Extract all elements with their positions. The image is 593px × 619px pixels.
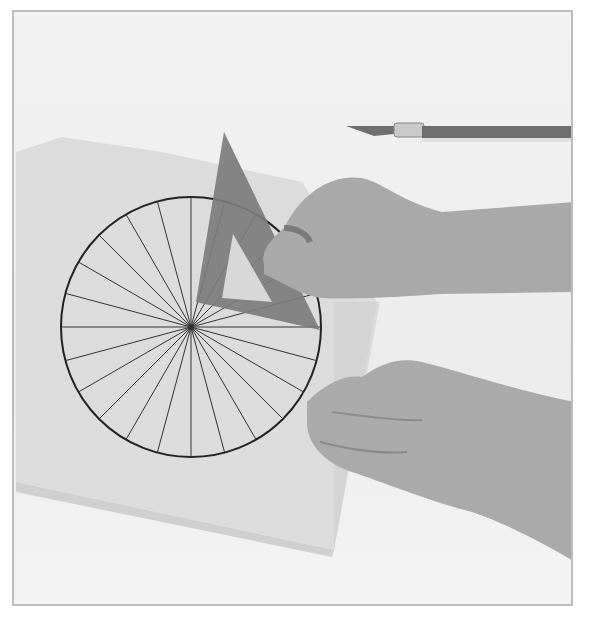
craft-knife — [346, 123, 573, 142]
photo-frame — [12, 10, 573, 606]
lower-hand — [307, 360, 573, 562]
upper-hand — [263, 177, 573, 298]
photo-scene — [14, 12, 573, 606]
